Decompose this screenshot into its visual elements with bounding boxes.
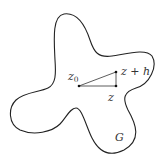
region-diagram: z0 z + h z G — [0, 0, 161, 161]
label-region-g: G — [115, 131, 124, 144]
point-z — [115, 85, 118, 88]
label-z0: z0 — [67, 70, 79, 84]
point-z0 — [78, 85, 81, 88]
label-z-plus-h: z + h — [120, 65, 150, 78]
region-boundary — [10, 14, 154, 153]
label-z: z — [107, 91, 114, 104]
point-z-plus-h — [115, 71, 118, 74]
triangle — [79, 72, 116, 86]
